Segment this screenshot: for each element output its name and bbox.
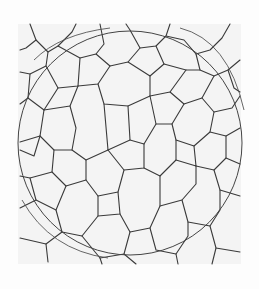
measurement-circle (18, 31, 242, 255)
figure-frame (0, 0, 259, 289)
grain-boundary-image (0, 0, 259, 289)
